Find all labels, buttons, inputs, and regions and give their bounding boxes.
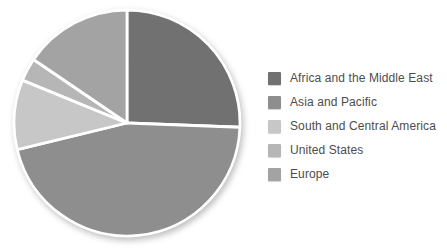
legend-item: South and Central America <box>268 114 436 138</box>
legend-label: Europe <box>290 168 329 181</box>
legend-swatch <box>268 96 281 109</box>
legend-swatch <box>268 168 281 181</box>
legend-swatch <box>268 72 281 85</box>
pie-chart <box>0 0 262 249</box>
legend-label: Africa and the Middle East <box>290 72 433 85</box>
legend-label: South and Central America <box>290 120 436 133</box>
pie-chart-area <box>0 0 262 249</box>
legend-item: Asia and Pacific <box>268 90 436 114</box>
legend-label: Asia and Pacific <box>290 96 377 109</box>
legend: Africa and the Middle EastAsia and Pacif… <box>268 66 436 186</box>
pie-slice-africa-and-the-middle-east <box>127 10 240 127</box>
legend-item: Europe <box>268 162 436 186</box>
legend-item: United States <box>268 138 436 162</box>
legend-item: Africa and the Middle East <box>268 66 436 90</box>
legend-label: United States <box>290 144 363 157</box>
legend-swatch <box>268 120 281 133</box>
pie-chart-figure: Africa and the Middle EastAsia and Pacif… <box>0 0 447 249</box>
legend-swatch <box>268 144 281 157</box>
